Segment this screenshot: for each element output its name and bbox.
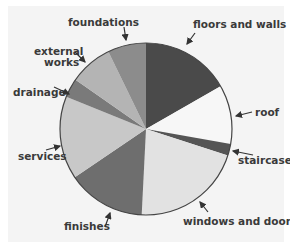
arrow-floors-and-walls <box>187 33 195 44</box>
label-staircase: staircase <box>238 154 290 166</box>
label-services: services <box>18 150 67 162</box>
arrow-windows-and-doors <box>200 202 208 212</box>
pie-slices <box>60 43 232 215</box>
pie-chart: floors and walls roof staircase windows … <box>0 0 290 250</box>
label-foundations: foundations <box>68 16 139 28</box>
label-roof: roof <box>255 106 280 118</box>
label-finishes: finishes <box>64 220 110 232</box>
arrow-roof <box>236 112 252 116</box>
label-windows-and-doors: windows and doors <box>183 215 290 227</box>
label-external-works-line2: works <box>44 56 79 68</box>
label-floors-and-walls: floors and walls <box>193 18 286 30</box>
arrow-foundations <box>124 27 126 40</box>
label-drainage: drainage <box>13 86 66 98</box>
